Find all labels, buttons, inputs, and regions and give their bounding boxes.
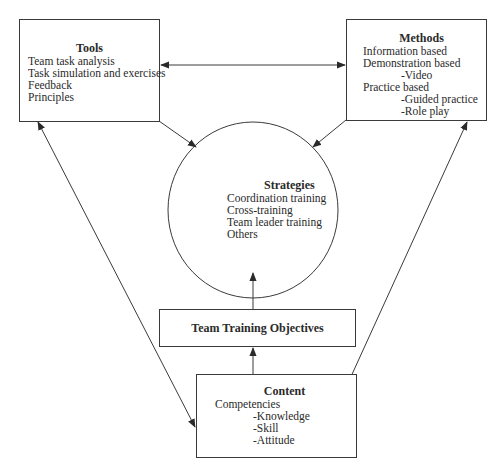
content-title: Content [197,385,356,398]
methods-subitem: -Video [363,69,486,81]
methods-subitem: -Guided practice [363,93,486,105]
strategies-item: Team leader training [227,216,326,228]
strategies-node: Strategies Coordination training Cross-t… [227,179,326,240]
methods-subitem: -Role play [363,105,486,117]
strategies-item: Coordination training [227,192,326,204]
strategies-title: Strategies [227,179,326,192]
strategies-item: Cross-training [227,204,326,216]
methods-strategies-arrow [313,120,346,147]
content-box: Content Competencies -Knowledge -Skill -… [196,374,357,458]
methods-item: Practice based [363,81,486,93]
tools-box: Tools Team task analysis Task simulation… [19,19,160,122]
tools-item: Task simulation and exercises [28,67,159,79]
objectives-box: Team Training Objectives [159,309,356,347]
content-subitem: -Attitude [215,434,356,446]
methods-box: Methods Information based Demonstration … [346,19,487,121]
tools-title: Tools [20,42,159,55]
strategies-item: Others [227,228,326,240]
tools-item: Team task analysis [28,55,159,67]
objectives-title: Team Training Objectives [191,322,323,335]
tools-item: Feedback [28,79,159,91]
content-subitem: -Skill [215,422,356,434]
methods-title: Methods [347,32,486,45]
content-subitem: -Knowledge [215,410,356,422]
content-item: Competencies [215,398,356,410]
tools-item: Principles [28,91,159,103]
methods-item: Information based [363,45,486,57]
tools-content-arrow [38,122,195,427]
methods-item: Demonstration based [363,57,486,69]
tools-strategies-arrow [159,121,196,147]
